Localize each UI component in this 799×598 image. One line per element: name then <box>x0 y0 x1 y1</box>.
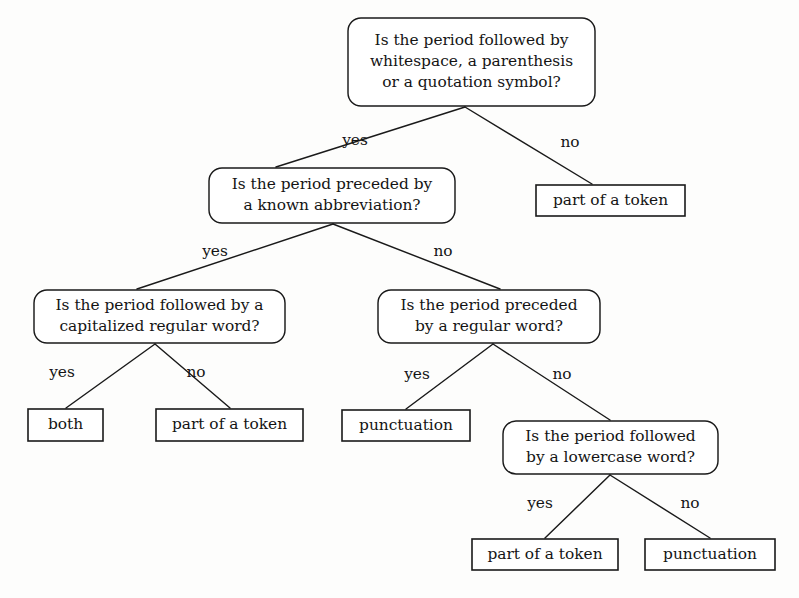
leaf-punct-2-line-0: punctuation <box>663 545 757 563</box>
q-abbrev-line-1: a known abbreviation? <box>243 196 420 214</box>
node-q-capitalized[interactable]: Is the period followed by acapitalized r… <box>34 290 285 343</box>
nodes-layer: Is the period followed bywhitespace, a p… <box>28 18 775 570</box>
node-leaf-both[interactable]: both <box>28 409 103 441</box>
edge-q-abbrev-to-q-regular-word <box>333 224 500 289</box>
node-q-regular-word[interactable]: Is the period precededby a regular word? <box>378 290 600 343</box>
node-leaf-punct-1[interactable]: punctuation <box>342 410 470 441</box>
edge-q-root-to-q-abbrev <box>276 107 465 167</box>
q-root-line-0: Is the period followed by <box>375 31 569 49</box>
q-lowercase-line-0: Is the period followed <box>525 427 696 445</box>
node-q-abbrev[interactable]: Is the period preceded bya known abbrevi… <box>209 168 455 223</box>
edge-label-yes-q-abbrev: yes <box>201 242 228 260</box>
node-leaf-token-2[interactable]: part of a token <box>156 409 303 441</box>
edge-label-no-q-capitalized: no <box>186 363 205 381</box>
edge-label-yes-q-root: yes <box>341 131 368 149</box>
q-regular-word-line-1: by a regular word? <box>415 317 563 335</box>
q-root-line-2: or a quotation symbol? <box>382 73 561 91</box>
node-leaf-token-3[interactable]: part of a token <box>472 539 618 570</box>
edge-q-lowercase-to-leaf-token-3 <box>545 475 610 538</box>
q-regular-word-line-0: Is the period preceded <box>400 296 577 314</box>
q-capitalized-line-0: Is the period followed by a <box>56 296 264 314</box>
node-leaf-token-1[interactable]: part of a token <box>536 185 685 216</box>
edge-label-no-q-root: no <box>560 133 579 151</box>
leaf-punct-1-line-0: punctuation <box>359 416 453 434</box>
q-abbrev-line-0: Is the period preceded by <box>232 175 433 193</box>
leaf-token-2-line-0: part of a token <box>172 415 287 433</box>
node-q-root[interactable]: Is the period followed bywhitespace, a p… <box>348 18 595 106</box>
node-leaf-punct-2[interactable]: punctuation <box>645 539 775 570</box>
edge-label-no-q-abbrev: no <box>433 242 452 260</box>
edge-label-yes-q-regular-word: yes <box>403 365 430 383</box>
q-lowercase-line-1: by a lowercase word? <box>526 448 695 466</box>
tree-canvas: Is the period followed bywhitespace, a p… <box>0 0 799 598</box>
edge-label-yes-q-capitalized: yes <box>48 363 75 381</box>
q-root-line-1: whitespace, a parenthesis <box>370 52 573 70</box>
leaf-token-3-line-0: part of a token <box>487 545 602 563</box>
edge-q-capitalized-to-leaf-both <box>66 344 155 408</box>
leaf-token-1-line-0: part of a token <box>553 191 668 209</box>
edge-label-no-q-lowercase: no <box>680 494 699 512</box>
node-q-lowercase[interactable]: Is the period followedby a lowercase wor… <box>503 421 718 474</box>
edge-label-yes-q-lowercase: yes <box>526 494 553 512</box>
decision-tree-diagram: Is the period followed bywhitespace, a p… <box>0 0 799 598</box>
edge-label-no-q-regular-word: no <box>552 365 571 383</box>
edge-q-abbrev-to-q-capitalized <box>137 224 333 289</box>
leaf-both-line-0: both <box>48 415 83 433</box>
q-capitalized-line-1: capitalized regular word? <box>59 317 259 335</box>
